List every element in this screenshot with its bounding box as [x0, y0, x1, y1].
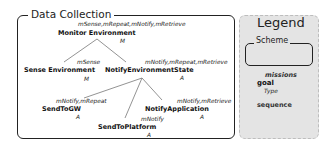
node-notify-state-type: A [180, 74, 184, 83]
legend-scheme-label: Scheme [254, 36, 290, 46]
legend-scheme-frame [245, 43, 313, 66]
node-notify-app-type: A [200, 113, 204, 122]
legend-sequence-label: sequence [257, 101, 292, 110]
legend-title: Legend [257, 15, 305, 31]
node-monitor-missions: mSense,mRepeat,mNotify,mRetrieve [78, 20, 186, 29]
legend-type-label: Type [264, 87, 278, 96]
node-send-platform-type: A [147, 131, 151, 140]
node-send-gw-type: A [76, 113, 80, 122]
node-sense-label[interactable]: Sense Environment [24, 66, 95, 75]
node-monitor-type: M [120, 37, 125, 46]
node-sense-type: M [84, 75, 89, 84]
